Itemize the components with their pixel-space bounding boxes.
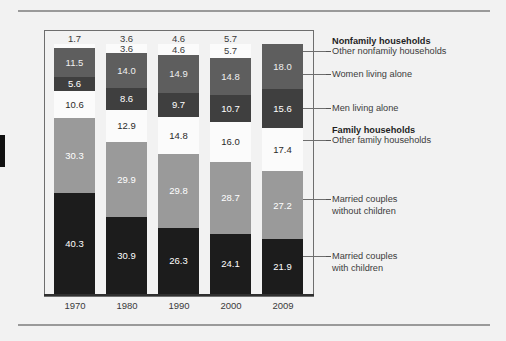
leader-line-3: [303, 140, 326, 141]
bar-column-1990[interactable]: 4.614.99.714.829.826.3: [158, 44, 199, 294]
segment-value-label: 15.6: [273, 104, 292, 114]
x-axis-line: [44, 294, 314, 296]
bar-segment-women_living_alone[interactable]: 14.0: [106, 53, 147, 88]
bar-cap-value-2000: 5.7: [210, 33, 251, 44]
legend-dash-icon: [326, 108, 331, 109]
bar-segment-men_living_alone[interactable]: 10.7: [210, 95, 251, 122]
segment-value-label: 8.6: [120, 94, 133, 104]
bar-segment-women_living_alone[interactable]: 14.8: [210, 58, 251, 95]
bar-segment-married_without_children[interactable]: 30.3: [54, 118, 95, 194]
bar-stack: 4.614.99.714.829.826.3: [158, 44, 199, 294]
bar-stack: 3.614.08.612.929.930.9: [106, 44, 147, 294]
bar-segment-men_living_alone[interactable]: 9.7: [158, 93, 199, 117]
legend-entry-5[interactable]: Other family households: [332, 135, 431, 147]
legend-dash-icon: [326, 74, 331, 75]
segment-value-label: 14.0: [117, 66, 136, 76]
bar-stack: 1.711.55.610.630.340.3: [54, 44, 95, 294]
bar-segment-other_family[interactable]: 14.8: [158, 117, 199, 154]
segment-value-label: 11.5: [66, 58, 84, 68]
bar-segment-other_family[interactable]: 17.4: [262, 128, 303, 172]
segment-value-label: 14.8: [169, 131, 188, 141]
segment-value-label: 30.9: [117, 251, 136, 261]
page-rule-bottom: [18, 324, 490, 326]
segment-value-label: 10.7: [221, 104, 240, 114]
bar-segment-married_with_children[interactable]: 24.1: [210, 234, 251, 294]
x-tick-1980: 1980: [101, 300, 153, 311]
bar-segment-men_living_alone[interactable]: 15.6: [262, 89, 303, 128]
segment-value-label: 16.0: [221, 137, 240, 147]
segment-value-label: 5.6: [68, 79, 81, 89]
bar-segment-married_without_children[interactable]: 28.7: [210, 162, 251, 234]
segment-value-label: 9.7: [172, 100, 185, 110]
legend-entry-6[interactable]: Married couples without children: [332, 194, 397, 217]
x-tick-1970: 1970: [49, 300, 101, 311]
segment-value-label: 18.0: [273, 62, 292, 72]
legend-entry-1[interactable]: Other nonfamily households: [332, 46, 446, 58]
bar-segment-other_nonfamily[interactable]: 4.6: [158, 44, 199, 56]
bar-column-2000[interactable]: 5.714.810.716.028.724.1: [210, 44, 251, 294]
bar-segment-other_nonfamily[interactable]: 5.7: [210, 44, 251, 58]
segment-value-label: 29.9: [117, 175, 136, 185]
x-tick-2009: 2009: [257, 300, 309, 311]
bar-segment-other_family[interactable]: 16.0: [210, 122, 251, 162]
legend-dash-icon: [326, 51, 331, 52]
segment-value-label: 10.6: [65, 100, 84, 110]
segment-value-label: 12.9: [117, 121, 136, 131]
segment-value-label: 28.7: [221, 193, 240, 203]
leader-line-5: [303, 256, 326, 257]
bar-stack: 5.714.810.716.028.724.1: [210, 44, 251, 294]
chart-page: 1.711.55.610.630.340.33.614.08.612.929.9…: [0, 0, 506, 341]
segment-value-label: 29.8: [169, 186, 188, 196]
stacked-bar-group: 1.711.55.610.630.340.33.614.08.612.929.9…: [44, 44, 314, 294]
x-tick-2000: 2000: [205, 300, 257, 311]
segment-value-label: 14.9: [169, 69, 188, 79]
bar-segment-other_family[interactable]: 10.6: [54, 91, 95, 118]
leader-line-0: [303, 51, 326, 52]
bar-segment-women_living_alone[interactable]: 14.9: [158, 55, 199, 92]
bar-segment-married_with_children[interactable]: 21.9: [262, 239, 303, 294]
bar-column-2009[interactable]: 18.015.617.427.221.9: [262, 44, 303, 294]
segment-value-label: 17.4: [273, 145, 292, 155]
bar-segment-women_living_alone[interactable]: 11.5: [54, 48, 95, 77]
bar-segment-men_living_alone[interactable]: 8.6: [106, 88, 147, 110]
segment-value-label: 4.6: [172, 45, 185, 55]
segment-value-label: 5.7: [224, 46, 237, 56]
bar-segment-other_family[interactable]: 12.9: [106, 110, 147, 142]
segment-value-label: 30.3: [65, 151, 84, 161]
segment-value-label: 27.2: [273, 201, 292, 211]
legend-entry-7[interactable]: Married couples with children: [332, 251, 397, 274]
bar-segment-married_with_children[interactable]: 26.3: [158, 228, 199, 294]
leader-line-4: [303, 199, 326, 200]
leader-line-1: [303, 74, 326, 75]
legend-dash-icon: [326, 199, 331, 200]
segment-value-label: 21.9: [273, 262, 292, 272]
bar-cap-value-1980: 3.6: [106, 33, 147, 44]
legend-entry-3[interactable]: Men living alone: [332, 103, 398, 115]
bar-segment-married_without_children[interactable]: 29.9: [106, 142, 147, 217]
bar-column-1970[interactable]: 1.711.55.610.630.340.3: [54, 44, 95, 294]
leader-line-2: [303, 108, 326, 109]
legend-dash-icon: [326, 256, 331, 257]
bar-segment-men_living_alone[interactable]: 5.6: [54, 77, 95, 91]
bar-segment-other_nonfamily[interactable]: 3.6: [106, 44, 147, 53]
segment-value-label: 24.1: [221, 259, 240, 269]
bar-column-1980[interactable]: 3.614.08.612.929.930.9: [106, 44, 147, 294]
bar-segment-women_living_alone[interactable]: 18.0: [262, 44, 303, 89]
segment-value-label: 3.6: [120, 44, 133, 54]
bar-cap-value-1970: 1.7: [54, 33, 95, 44]
page-rule-top: [18, 10, 490, 12]
bar-segment-married_with_children[interactable]: 40.3: [54, 193, 95, 294]
x-tick-1990: 1990: [153, 300, 205, 311]
segment-value-label: 40.3: [65, 239, 84, 249]
left-edge-tab: [0, 135, 5, 167]
segment-value-label: 14.8: [221, 72, 240, 82]
legend-entry-2[interactable]: Women living alone: [332, 69, 412, 81]
segment-value-label: 26.3: [169, 256, 188, 266]
bar-segment-married_without_children[interactable]: 29.8: [158, 154, 199, 229]
bar-segment-married_with_children[interactable]: 30.9: [106, 217, 147, 294]
bar-cap-value-1990: 4.6: [158, 33, 199, 44]
legend-dash-icon: [326, 140, 331, 141]
bar-segment-married_without_children[interactable]: 27.2: [262, 171, 303, 239]
bar-stack: 18.015.617.427.221.9: [262, 44, 303, 294]
